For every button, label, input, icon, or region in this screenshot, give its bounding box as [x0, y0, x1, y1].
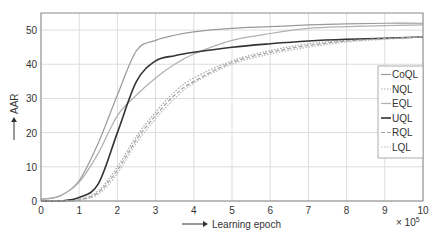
arrow-up-icon: [11, 117, 17, 122]
svg-text:9: 9: [382, 205, 388, 216]
y-axis-label: AAR: [9, 93, 20, 140]
legend-item-nql: NQL: [392, 84, 413, 95]
line-chart: 012345678910 01020304050 Learning epoch …: [0, 0, 443, 241]
legend-item-uql: UQL: [392, 113, 413, 124]
x-multiplier: × 105: [396, 216, 420, 228]
svg-text:6: 6: [267, 205, 273, 216]
svg-text:Learning epoch: Learning epoch: [212, 219, 281, 230]
svg-text:0: 0: [31, 196, 37, 207]
svg-text:2: 2: [115, 205, 121, 216]
legend: CoQLNQLEQLUQLRQLLQL: [378, 66, 423, 158]
svg-text:0: 0: [38, 205, 44, 216]
y-axis-ticks: 01020304050: [26, 25, 38, 207]
legend-item-rql: RQL: [392, 127, 413, 138]
svg-text:8: 8: [344, 205, 350, 216]
svg-text:× 105: × 105: [396, 216, 420, 228]
svg-text:40: 40: [26, 59, 38, 70]
svg-text:1: 1: [76, 205, 82, 216]
x-axis-label: Learning epoch: [182, 219, 281, 230]
svg-text:30: 30: [26, 93, 38, 104]
svg-text:7: 7: [306, 205, 312, 216]
legend-item-eql: EQL: [392, 98, 412, 109]
svg-text:20: 20: [26, 128, 38, 139]
svg-text:10: 10: [417, 205, 429, 216]
svg-text:50: 50: [26, 25, 38, 36]
x-axis-ticks: 012345678910: [38, 205, 429, 216]
svg-text:3: 3: [153, 205, 159, 216]
svg-text:4: 4: [191, 205, 197, 216]
grid: [41, 13, 423, 201]
legend-item-coql: CoQL: [392, 69, 419, 80]
svg-text:10: 10: [26, 162, 38, 173]
arrow-right-icon: [203, 221, 208, 227]
legend-item-lql: LQL: [392, 142, 411, 153]
svg-text:AAR: AAR: [9, 93, 20, 114]
svg-text:5: 5: [229, 205, 235, 216]
